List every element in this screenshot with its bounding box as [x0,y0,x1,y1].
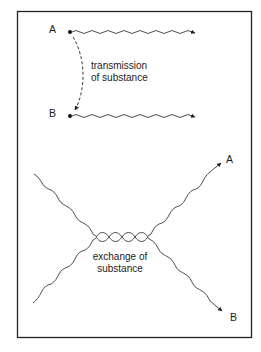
diagram-canvas [0,0,261,352]
exchange-caption-line1: exchange of [70,251,170,264]
strand-upper-left [34,174,96,236]
label-b-bottom: B [230,311,237,323]
point-b-dot [68,114,72,118]
wavy-line-b-top [72,115,195,118]
strand-upper-right [148,163,221,236]
transmission-caption-line2: of substance [91,72,148,85]
point-a-dot [68,30,72,34]
label-a-bottom: A [226,153,233,165]
label-b-top: B [49,107,56,119]
label-a-top: A [49,23,56,35]
wavy-line-a-top [72,31,195,34]
exchange-caption-line2: substance [70,263,170,276]
exchange-strand-2 [96,233,148,242]
transmission-caption-line1: transmission [91,60,147,73]
transmission-arrow [73,37,83,110]
